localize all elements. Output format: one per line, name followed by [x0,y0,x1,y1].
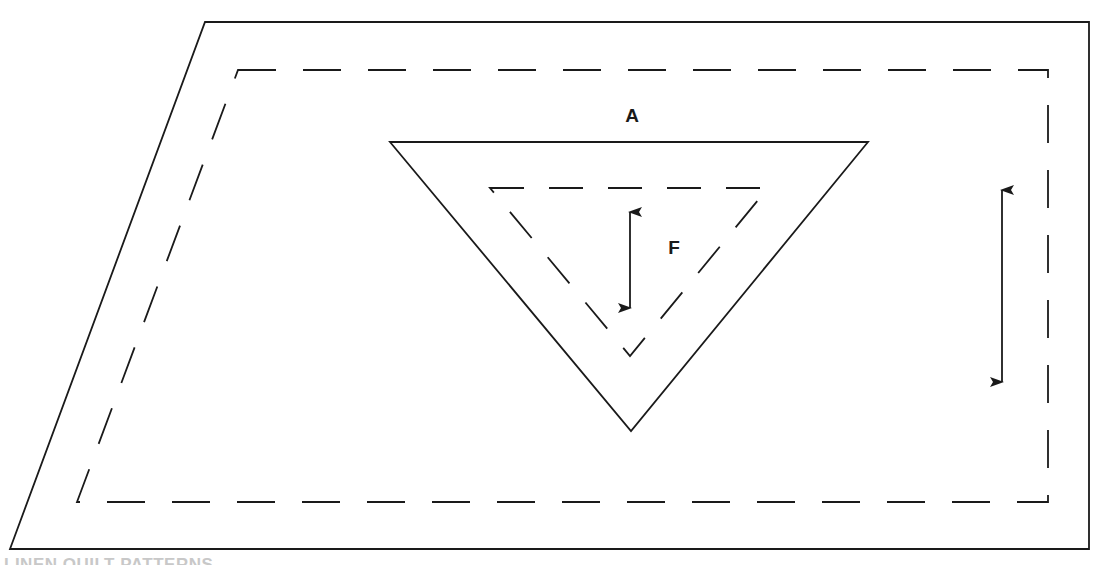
diagram-canvas: A F LINEN QUILT PATTERNS [0,0,1098,565]
triangle-a-cut-line [390,142,868,431]
figure-caption: LINEN QUILT PATTERNS [4,556,213,565]
outer-cut-line [10,22,1089,549]
piece-f-label: F [668,237,680,258]
triangle-f-seam-line [490,188,768,356]
piece-a-label: A [625,105,639,126]
outer-seam-line [77,70,1048,502]
quilt-pattern-diagram: A F [0,0,1098,565]
